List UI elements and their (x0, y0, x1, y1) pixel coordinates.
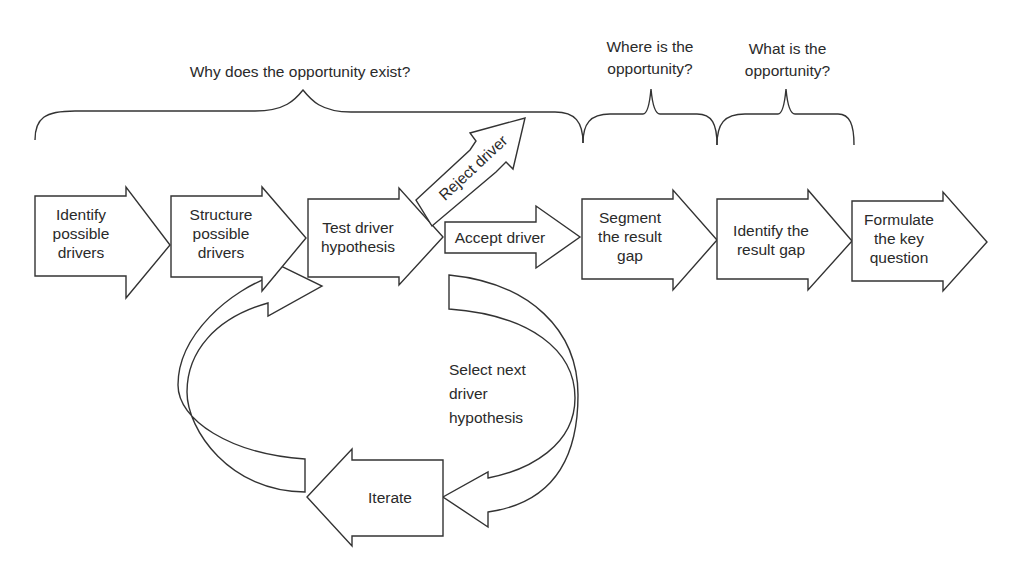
brace-where (583, 89, 717, 145)
label-structure-possible-drivers: Structure possible drivers (171, 205, 271, 262)
brace-what (717, 89, 854, 145)
question-what: What is the opportunity? (720, 38, 855, 82)
label-test-driver-hypothesis: Test driver hypothesis (308, 218, 408, 256)
question-why: Why does the opportunity exist? (150, 61, 450, 83)
label-select-next-hypothesis: Select next driver hypothesis (449, 358, 559, 430)
label-identify-possible-drivers: Identify possible drivers (35, 205, 127, 262)
label-segment-result-gap: Segment the result gap (582, 208, 678, 265)
label-identify-result-gap: Identify the result gap (717, 221, 825, 259)
label-accept-driver: Accept driver (445, 228, 555, 247)
label-iterate: Iterate (350, 488, 430, 507)
loop-arrow-to-structure (178, 263, 322, 492)
label-formulate-key-question: Formulate the key question (852, 210, 946, 267)
question-where: Where is the opportunity? (585, 36, 715, 80)
diagram-canvas (0, 0, 1010, 576)
